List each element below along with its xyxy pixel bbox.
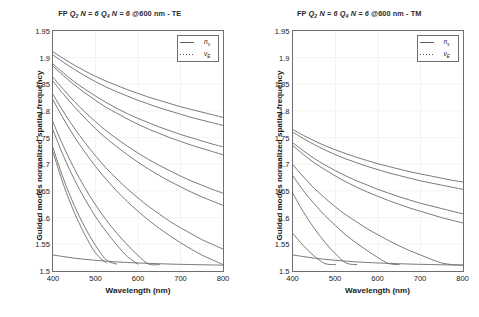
legend-label-effective-frequency: νE xyxy=(444,50,450,59)
title-tail: @600 nm - TE xyxy=(132,9,181,18)
y-axis-label-te: Guided modes normalized spatial frequenc… xyxy=(35,41,44,271)
legend-tm: ns νE xyxy=(417,35,459,62)
x-axis-label-te: Wavelength (nm) xyxy=(52,286,224,295)
y-tick-label: 1.95 xyxy=(275,27,290,36)
x-tick-label: 500 xyxy=(89,274,102,283)
y-axis-label-tm: Guided modes normalized spatial frequenc… xyxy=(274,41,283,271)
x-tick-label: 500 xyxy=(329,274,342,283)
x-axis-label-tm: Wavelength (nm) xyxy=(292,286,464,295)
title-fp: FP xyxy=(297,9,309,18)
panel-te-title: FP Q2 N = 6 Q4 N = 6 @600 nm - TE xyxy=(0,9,240,19)
x-tick-label: 600 xyxy=(132,274,145,283)
x-tick-label: 700 xyxy=(174,274,187,283)
panel-tm-title: FP Q2 N = 6 Q4 N = 6 @600 nm - TM xyxy=(240,9,479,19)
title-tail: @600 nm - TM xyxy=(371,9,421,18)
plot-area-tm: ns νE 1.51.551.61.651.71.751.81.851.91.9… xyxy=(292,30,464,272)
x-tick-label: 800 xyxy=(217,274,230,283)
title-n2: N = 6 xyxy=(349,9,371,18)
title-fp: FP xyxy=(58,9,70,18)
plot-area-te: ns νE 1.51.551.61.651.71.751.81.851.91.9… xyxy=(52,30,224,272)
panel-tm: FP Q2 N = 6 Q4 N = 6 @600 nm - TM ns νE … xyxy=(240,0,479,317)
legend-label-effective-frequency: νE xyxy=(204,50,210,59)
x-tick-label: 400 xyxy=(286,274,299,283)
legend-line-sample-solid xyxy=(420,39,434,46)
plot-canvas-tm xyxy=(293,31,463,271)
plot-canvas-te xyxy=(53,31,223,271)
legend-label-substrate-index: ns xyxy=(444,38,450,47)
x-tick-label: 800 xyxy=(456,274,469,283)
figure-two-panel-plots: FP Q2 N = 6 Q4 N = 6 @600 nm - TE ns νE … xyxy=(0,0,479,317)
title-n1: N = 6 xyxy=(78,9,100,18)
legend-entry-substrate-index: ns xyxy=(420,37,456,48)
x-tick-label: 600 xyxy=(371,274,384,283)
legend-entry-effective-frequency: νE xyxy=(420,49,456,60)
legend-line-sample-solid xyxy=(180,39,194,46)
curve-guided-mode xyxy=(53,152,106,263)
legend-line-sample-dotted xyxy=(180,51,194,58)
legend-entry-substrate-index: ns xyxy=(180,37,216,48)
curve-guided-mode xyxy=(53,148,117,264)
title-n1: N = 6 xyxy=(317,9,339,18)
y-tick-label: 1.95 xyxy=(35,27,50,36)
x-tick-label: 700 xyxy=(414,274,427,283)
curve-guided-mode xyxy=(293,194,357,265)
panel-te: FP Q2 N = 6 Q4 N = 6 @600 nm - TE ns νE … xyxy=(0,0,240,317)
legend-te: ns νE xyxy=(177,35,219,62)
legend-entry-effective-frequency: νE xyxy=(180,49,216,60)
title-n2: N = 6 xyxy=(110,9,132,18)
legend-line-sample-dotted xyxy=(420,51,434,58)
legend-label-substrate-index: ns xyxy=(204,38,210,47)
x-tick-label: 400 xyxy=(47,274,60,283)
